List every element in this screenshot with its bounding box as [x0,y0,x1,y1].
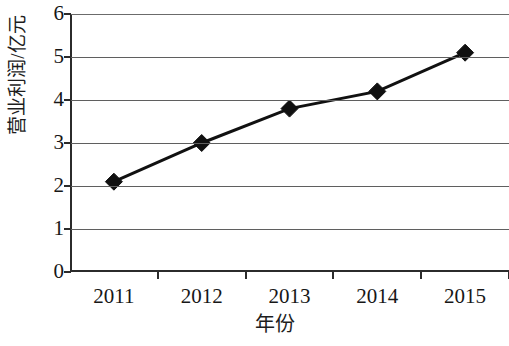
y-tick-mark [64,142,71,144]
gridline [70,186,509,187]
x-tick-label: 2014 [356,283,398,309]
gridline [70,100,509,101]
x-tick-label: 2013 [269,283,311,309]
y-axis-title: 营业利润/亿元 [5,0,31,165]
x-axis-title: 年份 [0,312,509,336]
gridline [70,14,509,15]
y-tick-mark [64,99,71,101]
y-tick-label: 3 [38,132,64,153]
gridline [70,57,509,58]
x-tick-mark [245,271,247,279]
y-axis-tick-labels: 0123456 [36,0,64,346]
y-tick-label: 2 [38,175,64,196]
x-tick-mark [332,271,334,279]
y-tick-mark [64,185,71,187]
y-tick-mark [64,56,71,58]
y-tick-mark [64,271,71,273]
data-point-marker [105,173,122,190]
chart-figure: 营业利润/亿元 0123456 20112012201320142015 年份 [0,0,509,346]
x-tick-label: 2011 [93,283,134,309]
y-tick-label: 6 [38,3,64,24]
data-point-marker [457,44,474,61]
gridline [70,143,509,144]
x-tick-label: 2015 [444,283,486,309]
plot-area [70,14,509,272]
x-tick-mark [420,271,422,279]
y-tick-label: 4 [38,89,64,110]
x-tick-mark [157,271,159,279]
y-tick-label: 0 [38,261,64,282]
y-tick-mark [64,228,71,230]
x-tick-label: 2012 [181,283,223,309]
gridline [70,229,509,230]
x-axis-tick-labels: 20112012201320142015 [70,283,509,311]
y-tick-mark [64,13,71,15]
y-tick-label: 1 [38,218,64,239]
y-tick-label: 5 [38,46,64,67]
data-point-marker [281,100,298,117]
data-point-marker [369,83,386,100]
